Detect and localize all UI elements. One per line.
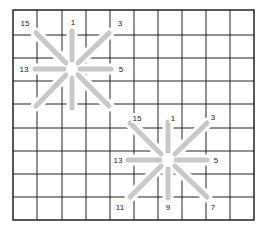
label-3: 3	[118, 19, 123, 28]
label-15: 15	[21, 19, 30, 28]
label-11: 11	[116, 203, 125, 212]
label-13: 13	[114, 156, 123, 165]
label-7: 7	[211, 203, 216, 212]
label-9: 9	[166, 203, 171, 212]
arm-bottom-left	[130, 166, 161, 197]
label-1: 1	[171, 114, 176, 123]
stitch-diagram: 15 1 3 13 5	[0, 0, 268, 232]
label-13: 13	[20, 65, 29, 74]
label-5: 5	[214, 156, 219, 165]
star-1: 15 1 3 13 5	[18, 17, 125, 108]
label-5: 5	[119, 65, 124, 74]
star-2: 15 1 3 13 5 11 9 7	[112, 112, 220, 212]
arm-bottom-right	[175, 166, 207, 197]
arm-bottom-right	[78, 75, 109, 106]
label-3: 3	[211, 113, 216, 122]
label-15: 15	[133, 114, 142, 123]
label-1: 1	[71, 18, 76, 27]
